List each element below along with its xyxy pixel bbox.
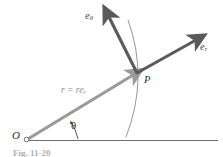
origin-marker [24,137,29,142]
unit-vector-e-r [136,40,196,74]
figure-canvas [0,0,223,157]
label-point-p: P [144,75,150,86]
label-position-vector: r = rer [61,86,86,96]
label-unit-vector-e-r: er [200,42,207,53]
label-origin-o: O [12,130,20,141]
label-unit-vector-e-theta: eθ [85,11,93,22]
label-angle-theta: θ [71,120,76,131]
unit-vector-e-theta [109,16,138,73]
figure-caption: Fig. 11-20 [13,149,51,157]
polar-coordinates-figure: eθ er r = rer P θ O Fig. 11-20 [0,0,223,157]
